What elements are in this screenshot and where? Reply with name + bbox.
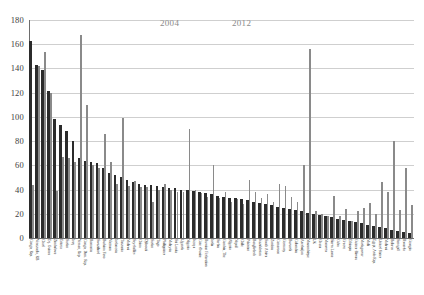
bar-2012 xyxy=(255,192,257,238)
bar-2012 xyxy=(231,202,233,238)
bar-2012 xyxy=(411,205,413,238)
x-axis-category-label: Swaziland xyxy=(96,239,100,254)
x-axis-category-label: Georgia xyxy=(408,239,412,251)
y-axis-tick-label: 120 xyxy=(11,88,24,98)
bar-2012 xyxy=(62,157,64,238)
x-axis-category-label: South Africa xyxy=(264,239,268,257)
x-axis-category-labels: Congo, Rep.Venezuela, RBChadEq. GuineaZi… xyxy=(29,239,414,295)
x-axis-category-label: Nigeria xyxy=(186,239,190,250)
bar-2012 xyxy=(285,186,287,238)
bar-2012 xyxy=(273,202,275,238)
bar-2012 xyxy=(56,191,58,238)
bar-2012 xyxy=(363,208,365,238)
bar-2012 xyxy=(387,192,389,238)
bar-2012 xyxy=(152,202,154,238)
x-axis-category-label: Kenya xyxy=(192,239,196,248)
bar-2012 xyxy=(189,129,191,238)
bar-2012 xyxy=(86,105,88,238)
x-axis-category-label: Chile xyxy=(240,239,244,247)
x-axis-category-label: United States xyxy=(378,239,382,258)
x-axis-category-label: Azerbaijan xyxy=(300,239,304,255)
bar-2012 xyxy=(321,214,323,238)
bar-2012 xyxy=(357,211,359,238)
x-axis-category-label: Gambia, The xyxy=(222,239,226,258)
bar-2012 xyxy=(158,190,160,238)
bar-2012 xyxy=(44,52,46,239)
x-axis-category-label: Eritrea xyxy=(59,239,63,249)
x-axis-category-label: Iraq xyxy=(71,239,75,245)
x-axis-category-label: Mali xyxy=(366,239,370,246)
x-axis-category-label: Burundi xyxy=(288,239,292,251)
bar-2012 xyxy=(267,194,269,238)
plot-area xyxy=(29,20,414,238)
bar-2012 xyxy=(375,214,377,238)
bar-2012 xyxy=(243,204,245,238)
x-axis-category-label: Kazakhstan xyxy=(258,239,262,256)
bar-2012 xyxy=(399,210,401,238)
x-axis-category-label: Tanzania xyxy=(120,239,124,252)
x-axis-category-label: Zimbabwe xyxy=(53,239,57,254)
x-axis-category-label: Seychelles xyxy=(132,239,136,254)
bar-2012 xyxy=(249,180,251,238)
y-axis-tick-label: 140 xyxy=(11,63,24,73)
bar-2012 xyxy=(98,168,100,238)
bar-2012 xyxy=(309,49,311,238)
x-axis-category-label: Romania xyxy=(89,239,93,252)
bar-2012 xyxy=(291,197,293,238)
bar-2012 xyxy=(405,168,407,238)
x-axis-category-label: Russian Federation xyxy=(204,239,208,267)
bar-2012 xyxy=(164,184,166,239)
y-axis-tick-label: 60 xyxy=(15,160,24,170)
x-axis-category-label: Togo xyxy=(156,239,160,246)
x-axis-category-label: China xyxy=(138,239,142,248)
bar-2012 xyxy=(369,203,371,238)
x-axis-category-label: Eq. Guinea xyxy=(47,239,51,255)
bar-2012 xyxy=(80,35,82,238)
bar-2012 xyxy=(146,187,148,238)
bar-2012 xyxy=(170,190,172,238)
x-axis-category-label: Sudan xyxy=(150,239,154,248)
x-axis-category-label: Chad xyxy=(41,239,45,247)
x-axis-category-label: Colombia xyxy=(294,239,298,253)
x-axis-category-label: Madagascar xyxy=(360,239,364,256)
x-axis-category-label: Serbia xyxy=(216,239,220,248)
x-axis-category-label: Indonesia xyxy=(114,239,118,253)
x-axis-category-label: Greece xyxy=(342,239,346,249)
bar-2012 xyxy=(92,165,94,238)
bar-2012 xyxy=(333,196,335,238)
x-axis-category-label: Cote d'Ivoire xyxy=(198,239,202,258)
bar-2012 xyxy=(303,165,305,238)
bar-2012 xyxy=(110,162,112,238)
x-axis-category-label: Pakistan xyxy=(246,239,250,251)
bar-2012 xyxy=(279,184,281,239)
x-axis-category-label: India xyxy=(210,239,214,246)
bar-2012 xyxy=(74,162,76,238)
x-axis-category-label: UK xyxy=(312,239,316,244)
bar-2012 xyxy=(237,199,239,238)
x-axis-category-label: Malawi xyxy=(384,239,388,250)
bar-2012 xyxy=(351,221,353,238)
y-axis-tick-label: 40 xyxy=(15,185,24,195)
bar-2012 xyxy=(128,186,130,238)
bar-2012 xyxy=(219,198,221,238)
y-axis-tick-label: 180 xyxy=(11,15,24,25)
bar-group xyxy=(408,20,414,238)
x-axis-category-label: Philippines xyxy=(162,239,166,255)
bar-2012 xyxy=(261,198,263,238)
x-axis-category-label: Belarus xyxy=(390,239,394,250)
bar-2012 xyxy=(122,118,124,238)
x-axis-category-label: Bangladesh xyxy=(252,239,256,256)
y-axis-tick-label: 100 xyxy=(11,112,24,122)
x-axis-category-label: Ethiopia xyxy=(348,239,352,251)
bar-2012 xyxy=(140,187,142,238)
x-axis-category-label: Sierra Leone xyxy=(330,239,334,257)
bar-2012 xyxy=(393,141,395,238)
bar-2012 xyxy=(225,192,227,238)
y-axis-tick-label: 20 xyxy=(15,209,24,219)
x-axis-category-label: Morocco xyxy=(324,239,328,252)
bar-2012 xyxy=(345,209,347,238)
x-axis-category-label: Ghana xyxy=(318,239,322,248)
bar-2012 xyxy=(68,158,70,238)
bar-2012 xyxy=(381,182,383,238)
bar-2012 xyxy=(177,192,179,238)
